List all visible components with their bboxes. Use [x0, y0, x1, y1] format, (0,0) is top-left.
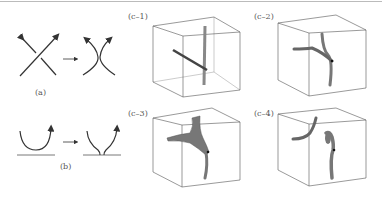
panel-c4-label: (c–4) [254, 109, 274, 118]
panel-c1-label: (c–1) [128, 12, 148, 21]
panel-c4-tubes [293, 118, 335, 178]
panel-b-label: (b) [60, 162, 71, 171]
panel-a-diagram [20, 36, 115, 76]
panel-c3-label: (c–3) [128, 109, 148, 118]
panel-c2-box [278, 15, 366, 96]
panel-b-diagram [17, 128, 121, 155]
panel-c3-tubes [167, 116, 209, 178]
figure-canvas [0, 0, 382, 199]
panel-c2-tubes [294, 34, 333, 85]
panel-c4-box [278, 108, 366, 186]
panel-a-label: (a) [35, 88, 46, 97]
panel-c1-box [153, 17, 240, 97]
panel-c2-label: (c–2) [254, 12, 274, 21]
